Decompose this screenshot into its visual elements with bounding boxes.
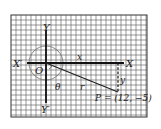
coordinate-diagram: Y X′ O X Y′ x y r θ P = (12, −5) [0,0,161,129]
label-y-neg: Y′ [41,104,51,115]
label-origin: O [35,65,43,76]
label-y-segment: y [119,75,126,85]
label-x-pos: X [125,58,134,69]
label-theta: θ [55,82,61,92]
label-y-pos: Y [43,22,51,33]
angle-theta-arc [49,65,52,69]
label-point-p: P = (12, −5) [94,93,152,103]
label-x-neg: X′ [12,58,23,69]
label-r-segment: r [80,82,85,92]
label-x-segment: x [77,52,82,62]
